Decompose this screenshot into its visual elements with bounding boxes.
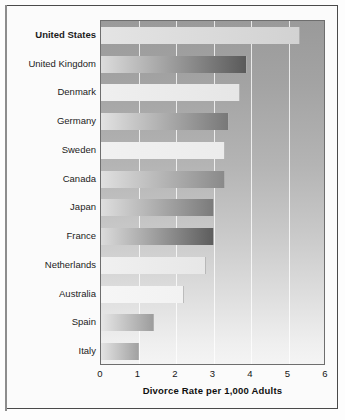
category-label: France <box>4 230 96 241</box>
category-label: Italy <box>4 345 96 356</box>
bar <box>101 56 247 73</box>
bar-row <box>101 228 325 245</box>
bar-row <box>101 84 325 101</box>
bar-row <box>101 56 325 73</box>
x-tick-label: 6 <box>315 368 335 380</box>
bar <box>101 84 240 101</box>
x-axis-title: Divorce Rate per 1,000 Adults <box>100 385 325 396</box>
bar-row <box>101 343 325 360</box>
bar <box>101 343 139 360</box>
x-tick-label: 0 <box>90 368 110 380</box>
bar <box>101 199 214 216</box>
x-tick-label: 1 <box>128 368 148 380</box>
bar-row <box>101 314 325 331</box>
plot-area <box>100 20 325 365</box>
x-tick-label: 5 <box>278 368 298 380</box>
bar-row <box>101 257 325 274</box>
category-label: Sweden <box>4 144 96 155</box>
bar <box>101 113 229 130</box>
bar <box>101 27 300 44</box>
category-axis-labels: United StatesUnited KingdomDenmarkGerman… <box>0 20 96 365</box>
category-label: Denmark <box>4 86 96 97</box>
category-label: Spain <box>4 316 96 327</box>
category-label: Germany <box>4 115 96 126</box>
bar-row <box>101 286 325 303</box>
bar <box>101 257 206 274</box>
bar <box>101 142 225 159</box>
bar-row <box>101 199 325 216</box>
category-label: Japan <box>4 201 96 212</box>
x-axis-tick-labels: 0123456 <box>100 368 325 381</box>
bar-row <box>101 113 325 130</box>
category-label: Canada <box>4 173 96 184</box>
bar <box>101 286 184 303</box>
figure: United StatesUnited KingdomDenmarkGerman… <box>0 0 345 420</box>
bar-row <box>101 142 325 159</box>
bar <box>101 314 154 331</box>
x-tick-label: 3 <box>203 368 223 380</box>
category-label: Australia <box>4 288 96 299</box>
category-label: Netherlands <box>4 259 96 270</box>
bar-row <box>101 171 325 188</box>
category-label: United Kingdom <box>4 58 96 69</box>
x-tick-label: 4 <box>240 368 260 380</box>
bar <box>101 228 214 245</box>
x-tick-label: 2 <box>165 368 185 380</box>
bar <box>101 171 225 188</box>
bar-row <box>101 27 325 44</box>
category-label: United States <box>4 29 96 40</box>
